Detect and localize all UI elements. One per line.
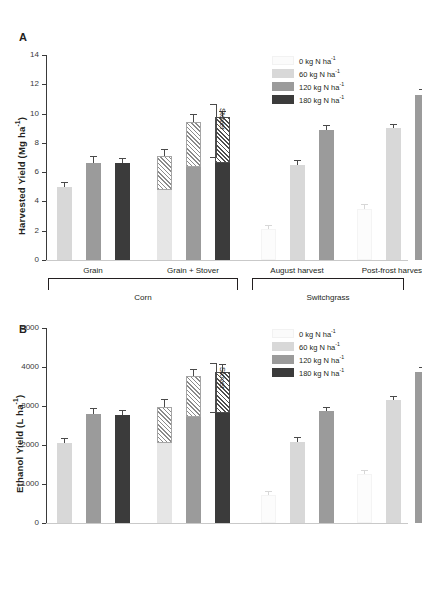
error-cap-A-4 [161,149,168,150]
error-cap-B-12 [419,367,422,368]
bar-base-segment [86,163,101,260]
legend-label-1: 60 kg N ha-1 [299,68,340,79]
error-cap-B-9 [323,407,330,408]
bar-B-9 [319,411,334,523]
bar-B-12 [415,372,422,523]
bar-stover-segment [157,156,172,190]
y-tick-label-3000: 3000 [6,401,39,410]
x-axis-baseline [46,523,408,524]
legend-swatch-3 [272,368,294,377]
error-bar-A-4 [164,149,165,156]
bar-A-4 [157,156,172,260]
legend-label-3: 180 kg N ha-1 [299,367,344,378]
bar-A-9 [319,130,334,260]
y-tick-6 [42,172,46,173]
bar-A-5 [186,122,201,260]
panel-b-plot-area: 010002000300040005000 [46,328,408,523]
bar-A-12 [415,95,422,260]
y-tick-label-6: 6 [6,167,39,176]
y-tick-label-0: 0 [6,255,39,264]
panel-b-stover-label: Stover [218,367,227,409]
panel-a-y-axis-title: Harvested Yield (Mg ha-1) [14,70,27,235]
error-cap-B-10 [361,470,368,471]
bar-B-1 [57,443,72,523]
error-cap-A-1 [61,182,68,183]
bar-base-segment [261,229,276,260]
bar-base-segment [157,190,172,260]
error-cap-A-7 [265,225,272,226]
y-tick-8 [42,143,46,144]
bar-base-segment [357,474,372,523]
figure-root: A Harvested Yield (Mg ha-1) 02468101214 … [0,0,422,615]
error-bar-B-4 [164,399,165,407]
bar-A-11 [386,128,401,260]
y-tick-4 [42,201,46,202]
y-axis-line [46,328,47,523]
error-cap-A-11 [390,124,397,125]
panel-a-stover-bracket [210,104,217,158]
y-tick-4000 [42,367,46,368]
legend-swatch-3 [272,95,294,104]
legend-swatch-1 [272,69,294,78]
legend-swatch-0 [272,56,294,65]
error-cap-B-1 [61,438,68,439]
bar-base-segment [319,130,334,260]
error-cap-B-6 [219,364,226,365]
panel-a-plot-area: 02468101214 [46,55,408,260]
bar-B-2 [86,414,101,523]
bar-base-segment [290,165,305,260]
error-cap-A-8 [294,160,301,161]
error-cap-A-2 [90,156,97,157]
legend-swatch-1 [272,342,294,351]
y-tick-label-1000: 1000 [6,479,39,488]
y-tick-label-4: 4 [6,196,39,205]
error-cap-B-11 [390,396,397,397]
bar-stover-segment [157,407,172,444]
error-cap-B-4 [161,399,168,400]
error-bar-B-5 [193,369,194,376]
bar-base-segment [290,442,305,523]
y-tick-14 [42,55,46,56]
y-tick-3000 [42,406,46,407]
error-cap-B-7 [265,491,272,492]
y-tick-10 [42,114,46,115]
bar-base-segment [386,400,401,523]
panel-a-stover-label: Stover [218,108,227,154]
error-cap-A-9 [323,125,330,126]
subgroup-label-2: August harvest [247,266,347,275]
bar-base-segment [215,163,230,260]
bar-B-10 [357,474,372,523]
crop-bracket-1 [252,278,404,290]
subgroup-label-3: Post-frost harvest [343,266,422,275]
crop-label-0: Corn [83,293,203,302]
y-tick-2000 [42,445,46,446]
y-tick-label-5000: 5000 [6,323,39,332]
bar-base-segment [386,128,401,260]
bar-base-segment [415,95,422,260]
legend-label-0: 0 kg N ha-1 [299,328,336,339]
bar-base-segment [186,167,201,260]
crop-label-1: Switchgrass [268,293,388,302]
y-tick-1000 [42,484,46,485]
bar-base-segment [261,495,276,523]
y-tick-label-2: 2 [6,226,39,235]
legend-label-2: 120 kg N ha-1 [299,81,344,92]
panel-b-stover-bracket [210,363,217,413]
y-tick-label-14: 14 [6,50,39,59]
bar-base-segment [415,372,422,523]
error-cap-A-5 [190,114,197,115]
bar-base-segment [57,187,72,260]
y-tick-label-4000: 4000 [6,362,39,371]
bar-B-3 [115,415,130,523]
y-tick-label-2000: 2000 [6,440,39,449]
legend-swatch-0 [272,329,294,338]
legend-label-0: 0 kg N ha-1 [299,55,336,66]
y-tick-12 [42,84,46,85]
legend-label-1: 60 kg N ha-1 [299,341,340,352]
bar-base-segment [115,163,130,260]
bar-base-segment [115,415,130,523]
y-tick-label-0: 0 [6,518,39,527]
subgroup-label-0: Grain [43,266,143,275]
bar-stover-segment [186,122,201,167]
bar-B-8 [290,442,305,523]
